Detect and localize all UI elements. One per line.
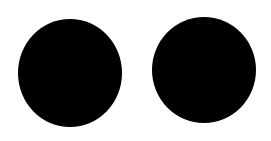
left-black-circle	[18, 19, 122, 127]
right-black-circle	[152, 17, 256, 123]
